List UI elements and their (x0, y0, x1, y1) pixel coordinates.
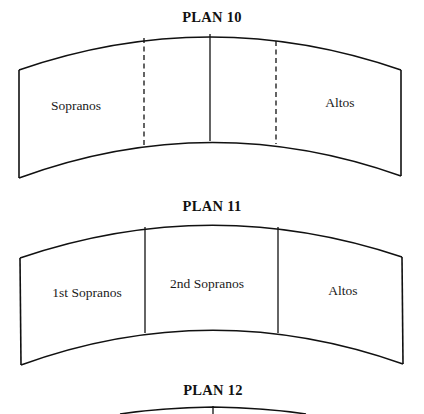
plan-11-section-1st-sopranos: 1st Sopranos (52, 285, 121, 300)
plan-10-section-sopranos: Sopranos (51, 98, 101, 113)
choir-seating-plans-diagram: PLAN 10 Sopranos Altos PLAN 11 1st Sopra… (0, 0, 424, 414)
plan-10: PLAN 10 Sopranos Altos (19, 9, 401, 178)
plan-12-title: PLAN 12 (183, 382, 243, 398)
plan-11-bottom-arc (21, 330, 403, 365)
plan-11-section-2nd-sopranos: 2nd Sopranos (170, 276, 244, 291)
plan-10-section-altos: Altos (325, 95, 354, 110)
plan-11-right-edge (402, 257, 403, 364)
plan-11-top-arc (20, 225, 402, 258)
plan-11-title: PLAN 11 (183, 198, 242, 214)
plan-11-section-altos: Altos (328, 283, 357, 298)
plan-11-left-edge (20, 258, 21, 365)
plan-10-bottom-arc (19, 142, 401, 178)
plan-12: PLAN 12 (120, 382, 306, 414)
plan-10-title: PLAN 10 (182, 9, 242, 25)
plan-11: PLAN 11 1st Sopranos 2nd Sopranos Altos (20, 198, 403, 365)
